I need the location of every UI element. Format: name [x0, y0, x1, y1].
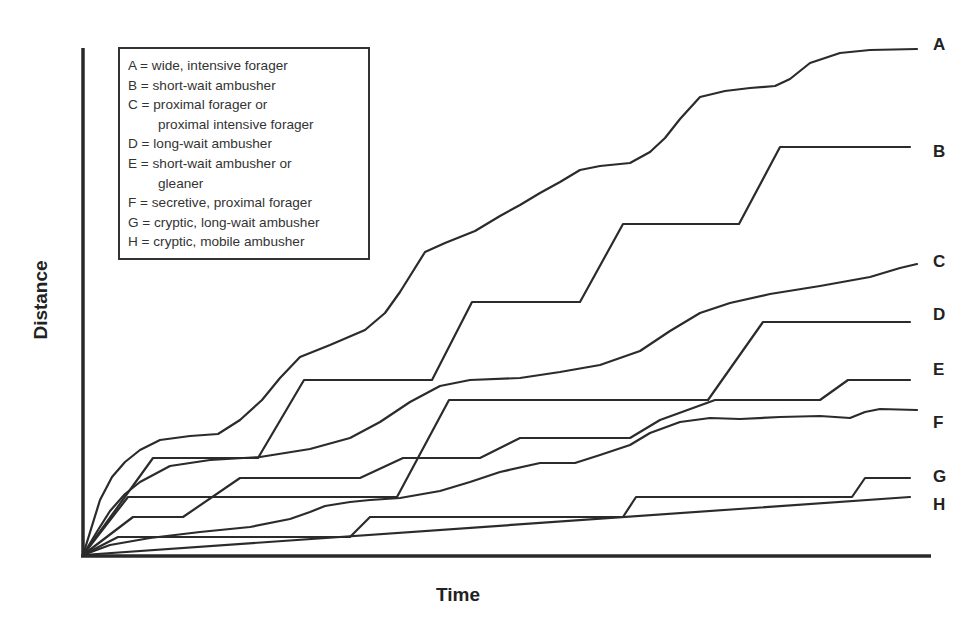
series-line-h [83, 497, 910, 555]
legend-item-c: C = proximal forager or [128, 95, 368, 115]
series-label-c: C [933, 252, 945, 271]
series-line-d [83, 322, 910, 555]
series-line-e [83, 380, 910, 555]
x-axis-label: Time [436, 584, 480, 605]
series-label-d: D [933, 305, 945, 324]
legend-item-d: D = long-wait ambusher [128, 134, 368, 154]
legend-item-e: E = short-wait ambusher or [128, 154, 368, 174]
series-line-f [83, 409, 917, 555]
y-axis-label: Distance [30, 260, 51, 339]
legend-item-b: B = short-wait ambusher [128, 76, 368, 96]
series-label-e: E [933, 360, 944, 379]
legend-item-c-continued: proximal intensive forager [128, 115, 368, 135]
legend-item-e-continued: gleaner [128, 174, 368, 194]
legend-item-h: H = cryptic, mobile ambusher [128, 232, 368, 252]
series-line-c [83, 264, 917, 555]
legend-item-g: G = cryptic, long-wait ambusher [128, 213, 368, 233]
legend-item-f: F = secretive, proximal forager [128, 193, 368, 213]
series-label-h: H [933, 495, 945, 514]
series-label-g: G [933, 467, 946, 486]
series-label-b: B [933, 142, 945, 161]
series-label-f: F [933, 413, 943, 432]
series-label-a: A [933, 35, 945, 54]
legend-box: A = wide, intensive forager B = short-wa… [118, 47, 370, 260]
series-line-g [83, 478, 910, 555]
legend-item-a: A = wide, intensive forager [128, 56, 368, 76]
